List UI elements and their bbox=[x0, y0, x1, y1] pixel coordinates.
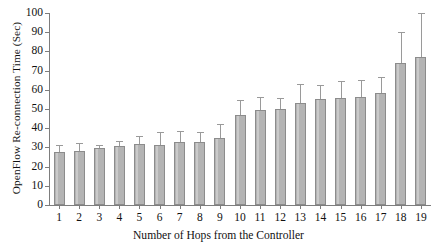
y-tick-label: 30 bbox=[5, 142, 43, 154]
x-tick bbox=[341, 205, 342, 209]
error-bar bbox=[280, 98, 281, 109]
x-tick bbox=[59, 205, 60, 209]
y-tick-label: 40 bbox=[5, 122, 43, 134]
x-tick bbox=[381, 205, 382, 209]
x-tick bbox=[99, 205, 100, 209]
y-tick-label: 0 bbox=[5, 199, 43, 211]
bar bbox=[114, 146, 125, 205]
error-bar bbox=[320, 85, 321, 99]
error-bar-cap bbox=[197, 132, 204, 133]
error-bar bbox=[180, 131, 181, 142]
x-tick bbox=[300, 205, 301, 209]
y-tick bbox=[45, 205, 49, 206]
bar bbox=[295, 103, 306, 205]
bar bbox=[174, 142, 185, 205]
error-bar bbox=[421, 13, 422, 57]
x-tick bbox=[79, 205, 80, 209]
error-bar bbox=[200, 132, 201, 142]
x-tick bbox=[260, 205, 261, 209]
error-bar-cap bbox=[418, 13, 425, 14]
y-tick bbox=[45, 186, 49, 187]
x-tick bbox=[139, 205, 140, 209]
error-bar-cap bbox=[338, 81, 345, 82]
error-bar-cap bbox=[358, 80, 365, 81]
bar bbox=[94, 148, 105, 205]
error-bar bbox=[59, 145, 60, 153]
chart-figure: OpenFlow Re-connection Time (Sec) 010203… bbox=[0, 0, 437, 250]
error-bar bbox=[300, 84, 301, 103]
error-bar bbox=[220, 124, 221, 137]
error-bar-cap bbox=[317, 85, 324, 86]
x-tick-label: 19 bbox=[408, 212, 434, 224]
bar bbox=[154, 145, 165, 205]
x-axis-title: Number of Hops from the Controller bbox=[0, 229, 437, 242]
x-tick bbox=[220, 205, 221, 209]
y-tick bbox=[45, 32, 49, 33]
error-bar-cap bbox=[136, 136, 143, 137]
y-tick bbox=[45, 71, 49, 72]
error-bar bbox=[260, 97, 261, 109]
y-tick bbox=[45, 147, 49, 148]
y-axis-line bbox=[49, 13, 50, 205]
y-tick-label: 50 bbox=[5, 103, 43, 115]
x-tick bbox=[180, 205, 181, 209]
x-tick bbox=[160, 205, 161, 209]
bar bbox=[74, 151, 85, 205]
y-tick-label: 10 bbox=[5, 180, 43, 192]
y-tick-label: 100 bbox=[5, 7, 43, 19]
error-bar bbox=[240, 100, 241, 114]
bar bbox=[54, 152, 65, 205]
bar bbox=[235, 115, 246, 205]
error-bar-cap bbox=[217, 124, 224, 125]
y-tick-label: 20 bbox=[5, 161, 43, 173]
error-bar bbox=[381, 77, 382, 92]
bar bbox=[335, 98, 346, 205]
error-bar-cap bbox=[177, 131, 184, 132]
y-tick bbox=[45, 109, 49, 110]
y-tick-label: 60 bbox=[5, 84, 43, 96]
error-bar bbox=[341, 81, 342, 98]
x-tick bbox=[280, 205, 281, 209]
error-bar-cap bbox=[76, 143, 83, 144]
error-bar-cap bbox=[378, 77, 385, 78]
bar bbox=[275, 109, 286, 205]
x-tick bbox=[119, 205, 120, 209]
bar bbox=[214, 138, 225, 205]
error-bar-cap bbox=[237, 100, 244, 101]
error-bar bbox=[361, 80, 362, 97]
y-tick bbox=[45, 128, 49, 129]
bar bbox=[134, 144, 145, 205]
error-bar-cap bbox=[257, 97, 264, 98]
error-bar-cap bbox=[116, 141, 123, 142]
error-bar bbox=[139, 136, 140, 144]
error-bar bbox=[79, 143, 80, 152]
bar bbox=[375, 93, 386, 205]
x-tick bbox=[421, 205, 422, 209]
y-tick bbox=[45, 167, 49, 168]
y-tick-label: 80 bbox=[5, 46, 43, 58]
error-bar-cap bbox=[398, 32, 405, 33]
error-bar-cap bbox=[277, 98, 284, 99]
bar bbox=[315, 99, 326, 205]
y-tick-label: 90 bbox=[5, 26, 43, 38]
x-tick bbox=[401, 205, 402, 209]
x-tick bbox=[240, 205, 241, 209]
bar bbox=[395, 63, 406, 205]
error-bar-cap bbox=[96, 145, 103, 146]
plot-area: 0102030405060708090100 12345678910111213… bbox=[49, 13, 431, 205]
bar bbox=[355, 97, 366, 205]
y-tick bbox=[45, 90, 49, 91]
error-bar-cap bbox=[56, 145, 63, 146]
y-tick bbox=[45, 51, 49, 52]
error-bar bbox=[401, 32, 402, 63]
error-bar-cap bbox=[157, 132, 164, 133]
x-tick bbox=[320, 205, 321, 209]
error-bar-cap bbox=[297, 84, 304, 85]
bar bbox=[194, 142, 205, 205]
error-bar bbox=[160, 132, 161, 144]
x-tick bbox=[200, 205, 201, 209]
bar bbox=[255, 110, 266, 205]
bar bbox=[415, 57, 426, 205]
y-tick bbox=[45, 13, 49, 14]
y-tick-label: 70 bbox=[5, 65, 43, 77]
